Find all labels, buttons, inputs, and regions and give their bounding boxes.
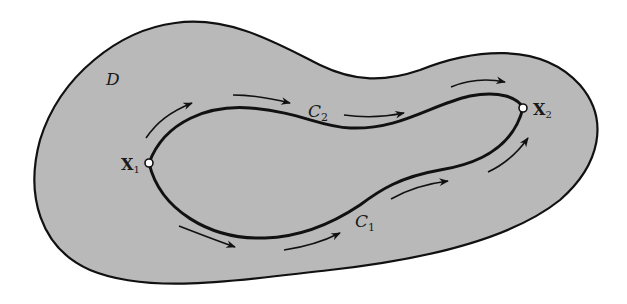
label-region-d: D xyxy=(105,69,120,89)
point-x2 xyxy=(519,104,527,112)
diagram-canvas: D C2 C1 X1 X2 xyxy=(0,0,627,304)
point-x1 xyxy=(145,159,153,167)
region-d xyxy=(34,22,597,284)
